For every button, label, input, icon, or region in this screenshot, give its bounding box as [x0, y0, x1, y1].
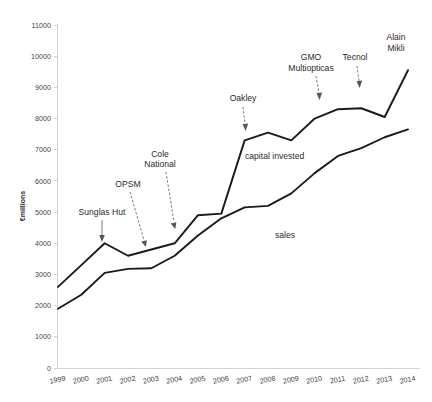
annotation-sunglas-hut: Sunglas Hut: [79, 207, 126, 242]
arrow-head-oakley: [243, 124, 249, 131]
annotation-label-alain-line1: Alain: [386, 32, 405, 42]
y-axis-tick-label: 8000: [35, 114, 51, 123]
y-axis-tick-labels: 0100020003000400050006000700080009000100…: [31, 21, 51, 373]
annotation-label-cole-national-line2: National: [144, 159, 176, 169]
annotation-label-oakley: Oakley: [230, 93, 257, 103]
y-axis-title: €millions: [19, 191, 26, 221]
x-axis-tick-label: 2000: [72, 373, 90, 385]
arrow-head-cole-national: [171, 222, 177, 229]
x-axis-tick-label: 2012: [352, 373, 370, 385]
x-axis-tick-label: 2008: [259, 373, 277, 385]
x-axis-tick-label: 2005: [189, 373, 207, 385]
y-axis-tick-label: 5000: [35, 208, 51, 217]
y-axis-tick-label: 6000: [35, 177, 51, 186]
y-axis-tick-label: 3000: [35, 270, 51, 279]
arrow-head-sunglas-hut: [99, 235, 105, 242]
x-axis-tick-label: 2007: [235, 373, 253, 385]
x-axis-tick-label: 2013: [375, 373, 393, 385]
y-axis-tick-label: 4000: [35, 239, 51, 248]
y-axis-tick-label: 2000: [35, 301, 51, 310]
annotation-gmo-multiopticas: GMO Multiopticas: [288, 52, 333, 100]
annotation-label-gmo-line1: GMO: [301, 52, 322, 62]
annotation-alain-mikli: Alain Mikli: [386, 32, 405, 53]
annotation-label-tecnol: Tecnol: [343, 52, 368, 62]
leader-line-tecnol: [357, 66, 359, 81]
sales-label: sales: [275, 230, 295, 240]
arrow-head-opsm: [141, 240, 147, 247]
x-axis-tick-label: 2006: [212, 373, 230, 385]
arrow-head-gmo: [317, 93, 323, 100]
annotation-oakley: Oakley: [230, 93, 257, 131]
x-axis-tick-label: 2003: [142, 373, 160, 385]
leader-line-opsm: [130, 192, 144, 240]
leader-line-cole-national: [166, 172, 174, 222]
y-axis-tick-label: 7000: [35, 145, 51, 154]
x-axis-tick-label: 2004: [165, 373, 183, 385]
annotation-label-cole-national-line1: Cole: [151, 149, 169, 159]
x-axis-tick-label: 2014: [399, 373, 417, 385]
y-axis-tick-label: 11000: [32, 21, 51, 30]
arrow-head-tecnol: [357, 81, 363, 88]
annotation-label-sunglas-hut: Sunglas Hut: [79, 207, 126, 217]
x-axis-tick-labels: 1999200020012002200320042005200620072008…: [49, 373, 417, 385]
leader-line-gmo: [316, 76, 319, 93]
x-axis-tick-label: 2011: [329, 374, 346, 386]
x-axis-tick-label: 2001: [95, 373, 113, 385]
leader-line-oakley: [243, 107, 245, 124]
y-axis-tick-label: 9000: [35, 83, 51, 92]
annotation-label-gmo-line2: Multiopticas: [288, 63, 333, 73]
y-axis-tick-label: 1000: [35, 332, 51, 341]
annotation-label-opsm: OPSM: [115, 179, 140, 189]
series-line-sales: [58, 129, 408, 308]
line-chart: 0100020003000400050006000700080009000100…: [0, 0, 432, 402]
annotation-tecnol: Tecnol: [343, 52, 368, 88]
x-axis-tick-label: 2002: [119, 373, 137, 385]
y-axis-tick-label: 0: [47, 364, 51, 373]
y-axis-tick-label: 10000: [31, 52, 51, 61]
chart-container: 0100020003000400050006000700080009000100…: [0, 0, 432, 402]
annotation-cole-national: Cole National: [144, 149, 176, 229]
x-axis-tick-label: 1999: [49, 373, 67, 385]
x-axis-tick-label: 2010: [305, 373, 323, 385]
x-axis-tick-label: 2009: [282, 373, 300, 385]
annotation-label-alain-line2: Mikli: [387, 43, 404, 53]
capital-invested-label: capital invested: [245, 151, 304, 161]
